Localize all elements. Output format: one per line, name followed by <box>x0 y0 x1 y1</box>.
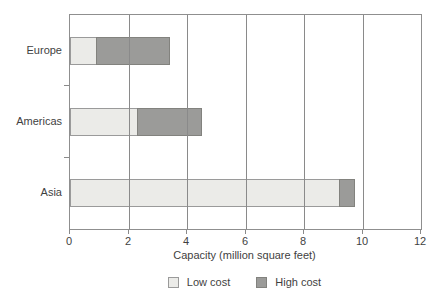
x-tick-label-10: 10 <box>347 235 377 247</box>
bar-segment-low-cost-europe <box>70 37 97 65</box>
y-axis-tick <box>64 85 69 86</box>
x-axis-tick-8 <box>303 230 304 234</box>
bar-segment-low-cost-americas <box>70 108 138 136</box>
x-tick-label-12: 12 <box>405 235 435 247</box>
bar-segment-high-cost-americas <box>137 108 202 136</box>
legend-label-high-cost: High cost <box>275 276 321 288</box>
x-tick-label-0: 0 <box>54 235 84 247</box>
x-axis-tick-0 <box>69 230 70 234</box>
x-axis-tick-4 <box>186 230 187 234</box>
x-tick-label-4: 4 <box>171 235 201 247</box>
gridline-x-10 <box>363 15 364 229</box>
legend-item-high-cost: High cost <box>256 276 321 288</box>
bar-segment-high-cost-asia <box>339 179 355 207</box>
x-tick-label-2: 2 <box>113 235 143 247</box>
x-tick-label-6: 6 <box>230 235 260 247</box>
x-axis-tick-12 <box>420 230 421 234</box>
x-axis-title: Capacity (million square feet) <box>69 249 420 261</box>
x-axis-tick-10 <box>362 230 363 234</box>
category-label-asia: Asia <box>0 185 62 199</box>
legend-item-low-cost: Low cost <box>168 276 230 288</box>
bar-segment-low-cost-asia <box>70 179 340 207</box>
y-axis-tick <box>64 157 69 158</box>
gridline-x-8 <box>304 15 305 229</box>
plot-area <box>69 14 422 230</box>
legend: Low costHigh cost <box>69 276 420 288</box>
x-axis-tick-2 <box>128 230 129 234</box>
gridline-x-6 <box>246 15 247 229</box>
x-tick-label-8: 8 <box>288 235 318 247</box>
legend-label-low-cost: Low cost <box>187 276 230 288</box>
legend-swatch-low-cost <box>168 277 179 288</box>
category-label-europe: Europe <box>0 43 62 57</box>
bar-segment-high-cost-europe <box>96 37 170 65</box>
category-label-americas: Americas <box>0 114 62 128</box>
chart-figure: EuropeAmericasAsia 024681012 Capacity (m… <box>0 0 447 305</box>
gridline-x-4 <box>187 15 188 229</box>
gridline-x-2 <box>129 15 130 229</box>
legend-swatch-high-cost <box>256 277 267 288</box>
x-axis-tick-6 <box>245 230 246 234</box>
